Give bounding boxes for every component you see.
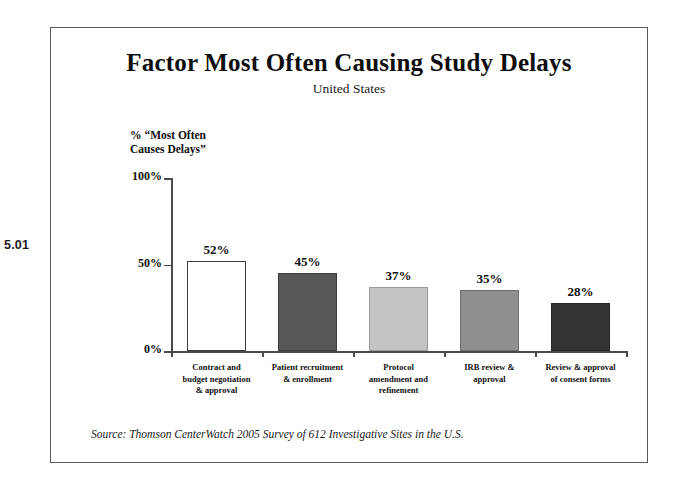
bar-value-label: 28%: [568, 284, 594, 300]
x-category-label: Review & approval of consent forms: [533, 362, 628, 385]
x-tick: [444, 351, 446, 357]
chart-title: Factor Most Often Causing Study Delays: [51, 49, 647, 77]
y-tick-mark: [164, 265, 171, 267]
chart-frame: Factor Most Often Causing Study Delays U…: [50, 27, 648, 463]
chart-subtitle: United States: [51, 81, 647, 97]
bar-review-approval-consent-forms: 28%: [551, 303, 610, 351]
plot-area: 100% 50% 0% 52% 45% 37% 35% 28%: [171, 178, 631, 351]
x-category-label: Contract and budget negotiation & approv…: [169, 362, 264, 397]
x-category-label: Protocol amendment and refinement: [351, 362, 446, 397]
x-tick: [353, 351, 355, 357]
x-tick: [535, 351, 537, 357]
y-axis-title: % “Most Often Causes Delays”: [130, 128, 206, 156]
source-note: Source: Thomson CenterWatch 2005 Survey …: [91, 428, 464, 440]
bar-value-label: 52%: [204, 242, 230, 258]
x-category-label: Patient recruitment & enrollment: [260, 362, 355, 385]
bar-contract-and-budget-negotiation: 52%: [187, 261, 246, 351]
bar-patient-recruitment-enrollment: 45%: [278, 273, 337, 351]
x-tick: [171, 351, 173, 357]
bar-value-label: 35%: [477, 271, 503, 287]
bar-protocol-amendment-refinement: 37%: [369, 287, 428, 351]
y-tick-label: 0%: [144, 342, 162, 357]
y-axis-line: [171, 178, 173, 351]
y-tick-mark: [164, 178, 171, 180]
bar-value-label: 37%: [386, 268, 412, 284]
y-tick-mark: [164, 351, 171, 353]
bar-value-label: 45%: [295, 254, 321, 270]
x-tick: [626, 351, 628, 357]
y-tick-label: 50%: [138, 256, 162, 271]
x-category-label: IRB review & approval: [442, 362, 537, 385]
y-tick-label: 100%: [132, 169, 162, 184]
x-tick: [262, 351, 264, 357]
figure-number: 5.01: [4, 238, 29, 252]
x-axis-line: [171, 351, 626, 353]
bar-irb-review-approval: 35%: [460, 290, 519, 351]
